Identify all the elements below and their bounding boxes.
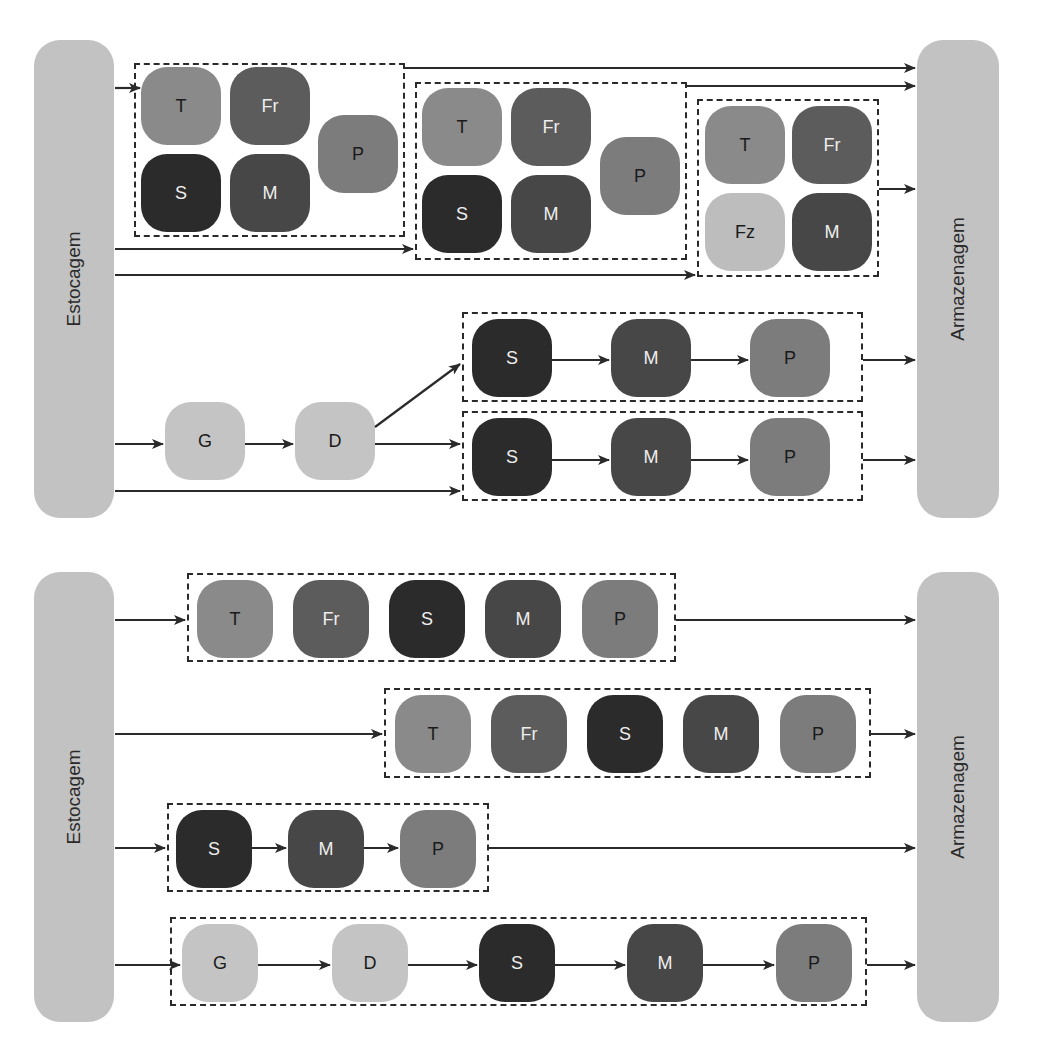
connector-arrows xyxy=(0,0,1042,1045)
